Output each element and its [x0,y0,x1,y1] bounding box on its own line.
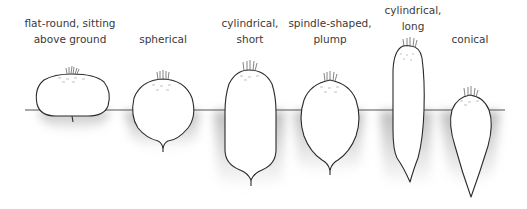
root-shapes-illustration [0,0,527,209]
root-flat-round [36,66,109,122]
foliage-stub-icon [66,66,79,74]
foliage-stub-icon [243,60,257,71]
foliage-stub-icon [324,71,337,81]
foliage-stub-icon [157,70,169,80]
